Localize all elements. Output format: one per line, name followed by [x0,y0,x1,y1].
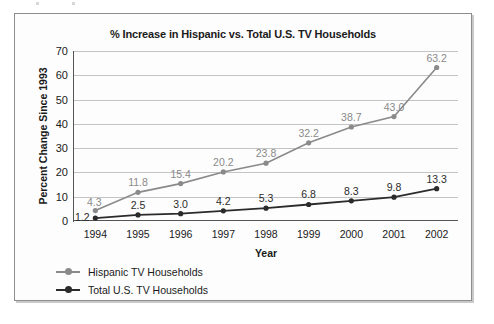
data-point-marker [93,215,98,220]
data-point-label: 11.8 [128,176,148,188]
data-point-marker [263,206,268,211]
data-point-label: 2.5 [131,199,146,211]
x-axis-tick-label: 1996 [169,228,192,240]
legend-marker-icon [56,284,80,296]
data-point-marker [434,186,439,191]
y-axis-tick-label: 0 [62,215,68,227]
x-axis-tick-label: 1994 [84,228,107,240]
legend-marker-icon [56,266,80,278]
x-axis-tick-label: 1995 [126,228,149,240]
x-axis-tick-label: 1998 [254,228,277,240]
x-axis-title: Year [74,247,458,259]
data-point-label: 4.2 [216,195,231,207]
data-point-marker [221,208,226,213]
data-point-marker [349,124,354,129]
data-point-label: 43.0 [384,101,404,113]
x-axis-tick-label: 1999 [297,228,320,240]
y-axis-title: Percent Change Since 1993 [36,51,50,221]
legend-item: Hispanic TV Households [56,263,208,281]
legend-item: Total U.S. TV Households [56,281,208,299]
x-axis-tick-label: 2000 [340,228,363,240]
data-point-label: 6.8 [301,188,316,200]
y-axis-tick-label: 70 [56,45,68,57]
x-axis-tick-label: 2002 [425,228,448,240]
data-point-marker [135,212,140,217]
data-point-marker [391,195,396,200]
data-point-marker [434,65,439,70]
data-point-label: 13.3 [426,173,446,185]
data-point-marker [391,114,396,119]
data-point-marker [349,198,354,203]
y-axis-tick-label: 10 [56,191,68,203]
x-axis-tick-label: 1997 [212,228,235,240]
data-point-label: 20.2 [213,156,233,168]
data-point-marker [221,169,226,174]
data-point-label: 3.0 [173,198,188,210]
data-point-label: 5.3 [259,192,274,204]
data-point-label: 38.7 [341,111,361,123]
data-point-marker [135,190,140,195]
series-line [95,68,436,211]
data-point-label: 15.4 [170,168,190,180]
data-point-label: 63.2 [426,52,446,64]
y-axis-tick-label: 20 [56,166,68,178]
y-axis-tick-label: 40 [56,118,68,130]
data-point-label: 8.3 [344,185,359,197]
scan-artifacts [0,0,494,10]
data-point-label: 1.2 [75,211,90,223]
data-point-marker [263,161,268,166]
y-axis-tick-label: 50 [56,94,68,106]
data-point-marker [306,140,311,145]
data-point-marker [93,208,98,213]
data-point-marker [178,181,183,186]
data-point-label: 4.3 [87,196,102,208]
data-point-label: 9.8 [387,181,402,193]
chart-figure-frame: % Increase in Hispanic vs. Total U.S. TV… [14,13,472,301]
y-axis-tick-label: 60 [56,69,68,81]
data-point-marker [306,202,311,207]
legend-label: Total U.S. TV Households [88,284,208,296]
plot-area: 010203040506070 199419951996199719981999… [74,51,458,221]
chart-legend: Hispanic TV HouseholdsTotal U.S. TV Hous… [56,263,208,299]
data-point-marker [178,211,183,216]
legend-label: Hispanic TV Households [88,266,203,278]
y-axis-tick-label: 30 [56,142,68,154]
data-point-label: 23.8 [256,147,276,159]
chart-title: % Increase in Hispanic vs. Total U.S. TV… [15,28,471,40]
y-axis-title-text: Percent Change Since 1993 [37,67,49,204]
data-point-label: 32.2 [298,127,318,139]
x-axis-tick-label: 2001 [382,228,405,240]
